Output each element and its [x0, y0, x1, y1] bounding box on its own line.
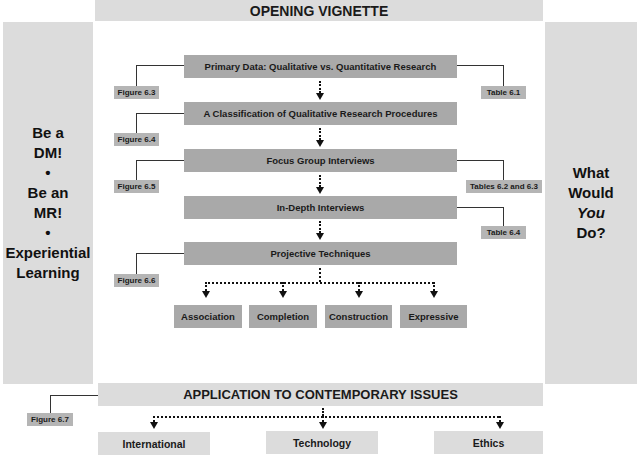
- left-panel-line: DM!: [34, 143, 62, 163]
- issue-label: International: [122, 438, 185, 450]
- figure-ref-label: Figure 6.3: [118, 88, 156, 97]
- connector-line: [136, 65, 137, 86]
- figure-ref-tag: Figure 6.4: [114, 133, 159, 146]
- connector-line: [136, 113, 184, 114]
- connector-line: [50, 395, 98, 396]
- step-primary-data: Primary Data: Qualitative vs. Quantitati…: [184, 55, 457, 78]
- arrow-down-icon: [202, 291, 210, 298]
- step-label: Projective Techniques: [270, 248, 370, 259]
- dotted-connector: [433, 282, 435, 291]
- dotted-connector: [319, 268, 321, 282]
- issue-label: Technology: [293, 437, 351, 449]
- step-label: In-Depth Interviews: [277, 202, 365, 213]
- connector-line: [136, 160, 137, 180]
- dotted-connector: [205, 282, 207, 291]
- step-label: Focus Group Interviews: [266, 155, 374, 166]
- figure-ref-label: Figure 6.4: [118, 135, 156, 144]
- left-panel-line: Be a: [32, 123, 64, 143]
- technique-completion: Completion: [249, 305, 317, 328]
- step-classification: A Classification of Qualitative Research…: [184, 102, 457, 125]
- connector-line: [136, 253, 184, 254]
- table-ref-label: Table 6.4: [487, 228, 521, 237]
- contemporary-issues-header: APPLICATION TO CONTEMPORARY ISSUES: [98, 383, 543, 406]
- arrow-down-icon: [150, 422, 158, 429]
- dotted-connector: [319, 81, 321, 93]
- right-panel: What Would You Do?: [545, 22, 637, 384]
- right-panel-line: Do?: [576, 223, 605, 243]
- technique-label: Expressive: [408, 311, 458, 322]
- technique-construction: Construction: [325, 305, 392, 328]
- technique-label: Completion: [257, 311, 309, 322]
- step-projective-techniques: Projective Techniques: [184, 242, 457, 265]
- arrow-down-icon: [316, 187, 324, 194]
- step-focus-group: Focus Group Interviews: [184, 149, 457, 172]
- issue-international: International: [98, 432, 210, 455]
- arrow-down-icon: [279, 291, 287, 298]
- bullet-separator: •: [45, 163, 50, 183]
- table-ref-tag: Table 6.4: [481, 226, 526, 239]
- left-panel-line: MR!: [34, 203, 62, 223]
- right-panel-line: Would: [568, 183, 614, 203]
- arrow-down-icon: [496, 422, 504, 429]
- connector-line: [50, 395, 51, 413]
- figure-ref-label: Figure 6.7: [31, 415, 69, 424]
- issue-technology: Technology: [266, 431, 378, 454]
- table-ref-label: Table 6.1: [487, 88, 521, 97]
- connector-line: [457, 207, 504, 208]
- arrow-down-icon: [316, 93, 324, 100]
- arrow-down-icon: [316, 233, 324, 240]
- right-panel-line: What: [573, 163, 610, 183]
- connector-line: [457, 160, 504, 161]
- figure-ref-tag: Figure 6.7: [27, 413, 73, 426]
- left-panel-line: Experiential: [5, 243, 90, 263]
- connector-line: [136, 65, 184, 66]
- connector-line: [136, 253, 137, 274]
- dotted-connector: [319, 221, 321, 233]
- connector-line: [457, 65, 504, 66]
- technique-association: Association: [174, 305, 242, 328]
- figure-ref-tag: Figure 6.5: [114, 180, 159, 193]
- connector-line: [503, 65, 504, 86]
- figure-ref-label: Figure 6.6: [118, 276, 156, 285]
- connector-line: [136, 160, 184, 161]
- arrow-down-icon: [430, 291, 438, 298]
- technique-label: Construction: [329, 311, 388, 322]
- dotted-branch-line: [205, 282, 434, 284]
- issue-label: Ethics: [473, 437, 505, 449]
- table-ref-tag: Table 6.1: [481, 86, 526, 99]
- bullet-separator: •: [45, 223, 50, 243]
- figure-ref-label: Figure 6.5: [118, 182, 156, 191]
- dotted-connector: [319, 128, 321, 140]
- connector-line: [503, 160, 504, 180]
- arrow-down-icon: [355, 291, 363, 298]
- issue-ethics: Ethics: [434, 431, 543, 454]
- table-ref-label: Tables 6.2 and 6.3: [470, 182, 538, 191]
- dotted-connector: [282, 282, 284, 291]
- figure-ref-tag: Figure 6.3: [114, 86, 159, 99]
- step-label: A Classification of Qualitative Research…: [203, 108, 437, 119]
- connector-line: [503, 207, 504, 226]
- footer-title: APPLICATION TO CONTEMPORARY ISSUES: [183, 387, 458, 402]
- header-title: OPENING VIGNETTE: [250, 3, 388, 19]
- dotted-connector: [319, 175, 321, 187]
- opening-vignette-header: OPENING VIGNETTE: [95, 0, 543, 21]
- dotted-branch-line: [153, 416, 499, 418]
- arrow-down-icon: [319, 422, 327, 429]
- left-panel-line: Learning: [16, 263, 79, 283]
- figure-ref-tag: Figure 6.6: [114, 274, 159, 287]
- connector-line: [136, 113, 137, 133]
- left-panel: Be a DM! • Be an MR! • Experiential Lear…: [3, 22, 93, 384]
- technique-label: Association: [181, 311, 235, 322]
- arrow-down-icon: [316, 140, 324, 147]
- right-panel-line: You: [577, 203, 605, 223]
- step-label: Primary Data: Qualitative vs. Quantitati…: [205, 61, 437, 72]
- table-ref-tag: Tables 6.2 and 6.3: [466, 180, 542, 193]
- dotted-connector: [358, 282, 360, 291]
- dotted-connector: [322, 408, 324, 416]
- technique-expressive: Expressive: [400, 305, 467, 328]
- left-panel-line: Be an: [28, 183, 69, 203]
- step-in-depth-interviews: In-Depth Interviews: [184, 196, 457, 219]
